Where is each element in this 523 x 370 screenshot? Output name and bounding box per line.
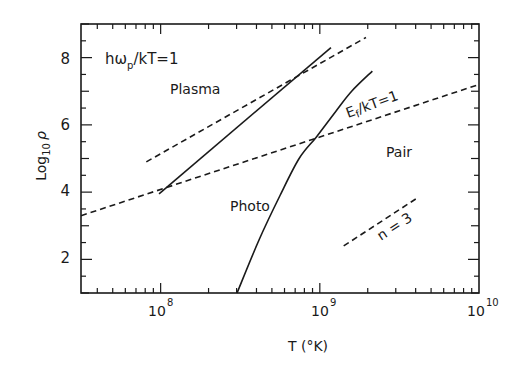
ytick-label-4: 4 [60,182,70,200]
svg-text:Ef/kT=1: Ef/kT=1 [344,87,401,123]
svg-text:8: 8 [167,297,173,308]
svg-text:10: 10 [467,303,485,319]
phase-diagram-chart: 8 6 4 2 10 8 10 9 10 10 T (°K) Log10ρ hω… [0,0,523,370]
y-axis-label: Log10ρ [33,131,52,181]
data-series [81,37,479,293]
svg-text:10: 10 [486,297,499,308]
region-label-pair: Pair [386,144,412,160]
xtick-label-1e9: 10 9 [311,297,336,319]
ytick-label-8: 8 [60,50,70,68]
svg-text:10: 10 [311,303,329,319]
ytick-label-6: 6 [60,116,70,134]
xtick-label-1e10: 10 10 [467,297,499,319]
annotation-plasma-frequency: hωp/kT=1 [105,50,178,71]
annotation-n3: n = 3 [374,209,415,243]
x-axis-label: T (°K) [287,338,328,354]
xtick-label-1e8: 10 8 [148,297,173,319]
svg-text:9: 9 [330,297,336,308]
svg-text:Log10ρ: Log10ρ [33,131,52,181]
ytick-label-2: 2 [60,249,70,267]
region-label-plasma: Plasma [170,81,220,97]
series-plasma-photo-boundary [159,48,331,194]
svg-text:10: 10 [148,303,166,319]
svg-text:n = 3: n = 3 [374,209,415,243]
series-h-p-kt-1-asymptote [146,37,366,161]
annotation-fermi-energy: Ef/kT=1 [344,87,401,123]
region-label-photo: Photo [230,198,270,214]
